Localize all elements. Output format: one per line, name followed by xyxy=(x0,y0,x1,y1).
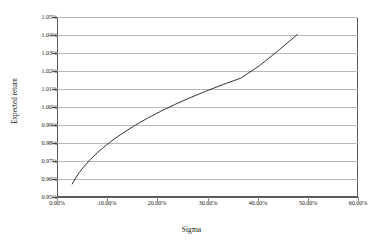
x-tick-label: 40.00% xyxy=(235,200,281,206)
gridline xyxy=(57,107,358,108)
y-tick-label: 1.01% xyxy=(17,86,57,92)
gridline xyxy=(57,53,358,54)
gridline xyxy=(57,143,358,144)
gridline xyxy=(57,35,358,36)
y-tick-label: 0.96% xyxy=(17,176,57,182)
gridline xyxy=(57,17,358,18)
x-axis-title: Sigma xyxy=(0,226,383,234)
chart-container: 1.05%1.04%1.03%1.02%1.01%1.00%0.99%0.98%… xyxy=(0,0,383,249)
y-tick-label: 1.02% xyxy=(17,68,57,74)
y-tick-label: 1.04% xyxy=(17,32,57,38)
x-tick-label: 60.00% xyxy=(335,200,381,206)
y-tick-label: 1.05% xyxy=(17,14,57,20)
y-axis-title: Expected return xyxy=(11,46,19,156)
y-tick-label: 1.00% xyxy=(17,104,57,110)
x-tick-label: 10.00% xyxy=(84,200,130,206)
gridline xyxy=(57,89,358,90)
gridline xyxy=(57,125,358,126)
gridline xyxy=(57,179,358,180)
gridline xyxy=(57,161,358,162)
gridline xyxy=(57,71,358,72)
x-tick-label: 20.00% xyxy=(134,200,180,206)
x-tick-label: 30.00% xyxy=(185,200,231,206)
y-tick-label: 1.03% xyxy=(17,50,57,56)
y-tick-label: 0.98% xyxy=(17,140,57,146)
y-tick-label: 0.97% xyxy=(17,158,57,164)
x-tick-label: 50.00% xyxy=(285,200,331,206)
x-tick-label: 0.00% xyxy=(34,200,80,206)
y-tick-label: 0.99% xyxy=(17,122,57,128)
